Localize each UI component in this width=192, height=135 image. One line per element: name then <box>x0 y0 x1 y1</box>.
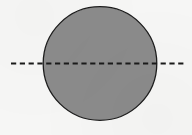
figure-canvas <box>0 0 192 135</box>
diagram-svg <box>0 0 192 135</box>
